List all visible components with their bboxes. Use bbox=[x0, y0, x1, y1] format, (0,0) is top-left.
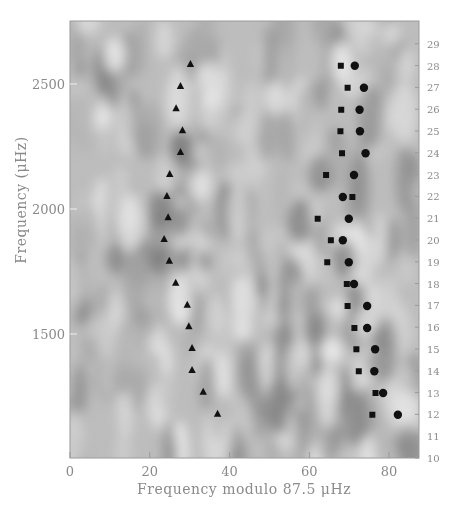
y-tick-label: 2000 bbox=[32, 202, 65, 217]
circle-marker bbox=[361, 149, 369, 157]
square-marker bbox=[353, 346, 359, 352]
circle-marker bbox=[360, 84, 368, 92]
circle-marker bbox=[345, 258, 353, 266]
order-label: 28 bbox=[427, 61, 440, 72]
order-label: 13 bbox=[427, 388, 440, 399]
square-marker bbox=[324, 259, 330, 265]
order-label: 27 bbox=[427, 82, 440, 93]
square-marker bbox=[315, 216, 321, 222]
x-tick-label: 0 bbox=[66, 464, 74, 479]
circle-marker bbox=[370, 367, 378, 375]
order-label: 24 bbox=[427, 148, 440, 159]
x-tick-label: 80 bbox=[381, 464, 398, 479]
circle-marker bbox=[351, 62, 359, 70]
square-marker bbox=[345, 303, 351, 309]
order-label: 25 bbox=[427, 126, 440, 137]
circle-marker bbox=[339, 193, 347, 201]
x-tick-label: 60 bbox=[301, 464, 318, 479]
order-label: 16 bbox=[427, 322, 440, 333]
x-tick-label: 20 bbox=[141, 464, 158, 479]
order-label: 19 bbox=[427, 257, 440, 268]
circle-marker bbox=[394, 411, 402, 419]
order-label: 10 bbox=[427, 453, 440, 464]
order-label: 17 bbox=[427, 300, 440, 311]
order-label: 21 bbox=[427, 213, 440, 224]
order-label: 26 bbox=[427, 104, 440, 115]
order-label: 11 bbox=[427, 431, 440, 442]
order-label: 12 bbox=[427, 409, 440, 420]
square-marker bbox=[323, 172, 329, 178]
square-marker bbox=[349, 194, 355, 200]
circle-marker bbox=[355, 106, 363, 114]
order-label: 23 bbox=[427, 170, 440, 181]
order-label: 29 bbox=[427, 39, 440, 50]
circle-marker bbox=[350, 171, 358, 179]
circle-marker bbox=[371, 345, 379, 353]
x-tick-label: 40 bbox=[221, 464, 238, 479]
square-marker bbox=[344, 281, 350, 287]
circle-marker bbox=[363, 324, 371, 332]
circle-marker bbox=[345, 215, 353, 223]
x-axis-title: Frequency modulo 87.5 μHz bbox=[137, 481, 351, 497]
echelle-diagram: 020406080 150020002500 10111213141516171… bbox=[0, 0, 453, 506]
square-marker bbox=[345, 85, 351, 91]
y-tick-label: 2500 bbox=[32, 77, 65, 92]
y-axis-title: Frequency (μHz) bbox=[13, 136, 29, 263]
square-marker bbox=[339, 150, 345, 156]
order-label: 14 bbox=[427, 366, 440, 377]
circle-marker bbox=[350, 280, 358, 288]
order-label: 20 bbox=[427, 235, 440, 246]
square-marker bbox=[338, 63, 344, 69]
square-marker bbox=[337, 128, 343, 134]
circle-marker bbox=[339, 236, 347, 244]
order-label: 22 bbox=[427, 191, 440, 202]
square-marker bbox=[356, 368, 362, 374]
square-marker bbox=[351, 325, 357, 331]
order-label: 15 bbox=[427, 344, 440, 355]
power-background bbox=[58, 0, 428, 483]
square-marker bbox=[328, 237, 334, 243]
y-tick-label: 1500 bbox=[32, 327, 65, 342]
circle-marker bbox=[356, 127, 364, 135]
order-label: 18 bbox=[427, 279, 440, 290]
circle-marker bbox=[363, 302, 371, 310]
square-marker bbox=[338, 107, 344, 113]
square-marker bbox=[369, 412, 375, 418]
square-marker bbox=[373, 390, 379, 396]
circle-marker bbox=[379, 389, 387, 397]
